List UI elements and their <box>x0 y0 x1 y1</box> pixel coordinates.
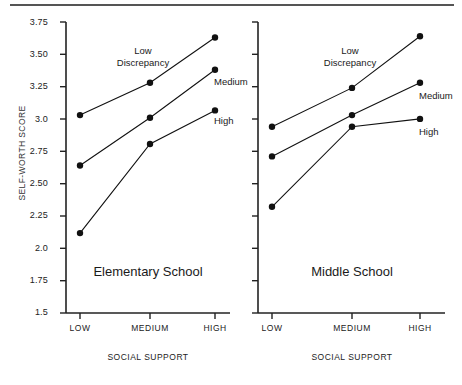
left-series-low-discrepancy-point <box>212 34 218 40</box>
left-series-low-discrepancy-point <box>77 112 83 118</box>
right-series-low-discrepancy-point <box>417 33 423 39</box>
right-x-tick-label: MEDIUM <box>322 323 382 333</box>
left-series-medium-point <box>147 115 153 121</box>
left-x-tick-label: HIGH <box>185 323 245 333</box>
left-series-label-low-discrepancy: Low Discrepancy <box>103 45 183 69</box>
right-series-medium-point <box>269 153 275 159</box>
right-series-label-low-discrepancy: Low Discrepancy <box>310 45 390 69</box>
left-series-medium-point <box>77 162 83 168</box>
left-x-tick-label: LOW <box>50 323 110 333</box>
right-series-medium-line <box>272 83 420 157</box>
left-x-tick-label: MEDIUM <box>120 323 180 333</box>
left-series-high-point <box>147 141 153 147</box>
right-panel-title: Middle School <box>252 264 452 279</box>
right-series-high-point <box>349 124 355 130</box>
right-series-high-point <box>269 204 275 210</box>
left-series-label-high: High <box>214 115 264 127</box>
left-series-high-point <box>77 230 83 236</box>
right-series-low-discrepancy-point <box>349 85 355 91</box>
left-series-low-discrepancy-point <box>147 80 153 86</box>
left-series-high-point <box>212 107 218 113</box>
right-x-tick-label: LOW <box>242 323 302 333</box>
right-series-label-medium: Medium <box>419 90 462 102</box>
right-series-label-high: High <box>419 126 462 138</box>
left-series-medium-point <box>212 67 218 73</box>
right-series-medium-point <box>349 112 355 118</box>
right-series-high-line <box>272 119 420 207</box>
right-series-high-point <box>417 116 423 122</box>
right-x-tick-label: HIGH <box>390 323 450 333</box>
right-series-medium-point <box>417 80 423 86</box>
left-panel-title: Elementary School <box>48 264 248 279</box>
left-x-axis-title: SOCIAL SUPPORT <box>48 352 248 362</box>
left-series-high-line <box>80 110 215 233</box>
right-series-low-discrepancy-point <box>269 124 275 130</box>
chart-figure: SELF-WORTH SCORE 3.75 3.50 3.25 3.0 2.75… <box>0 0 462 385</box>
left-series-label-medium: Medium <box>214 76 264 88</box>
right-x-axis-title: SOCIAL SUPPORT <box>252 352 452 362</box>
